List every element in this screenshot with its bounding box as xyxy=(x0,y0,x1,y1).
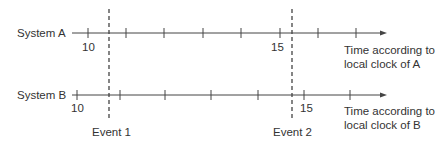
timeline-a-name: System A xyxy=(17,27,66,40)
timeline-b-tick-label-15: 15 xyxy=(300,102,313,115)
timeline-a-axis-label-line2: local clock of A xyxy=(344,58,420,71)
timeline-b xyxy=(72,90,382,100)
timeline-b-axis-label-line2: local clock of B xyxy=(344,119,421,132)
timeline-a-tick-label-10: 10 xyxy=(82,41,95,54)
timeline-a-tick-label-15: 15 xyxy=(271,41,284,54)
event-1-label: Event 1 xyxy=(92,126,131,139)
timeline-b-name: System B xyxy=(17,89,66,102)
timeline-a-axis-label-line1: Time according to xyxy=(344,44,435,57)
arrow-head-b-icon xyxy=(380,93,387,98)
timeline-b-axis-label-line1: Time according to xyxy=(344,105,435,118)
arrow-head-a-icon xyxy=(380,31,387,36)
event-2-label: Event 2 xyxy=(273,126,312,139)
timeline-b-tick-label-10: 10 xyxy=(71,102,84,115)
timeline-a xyxy=(72,28,382,38)
